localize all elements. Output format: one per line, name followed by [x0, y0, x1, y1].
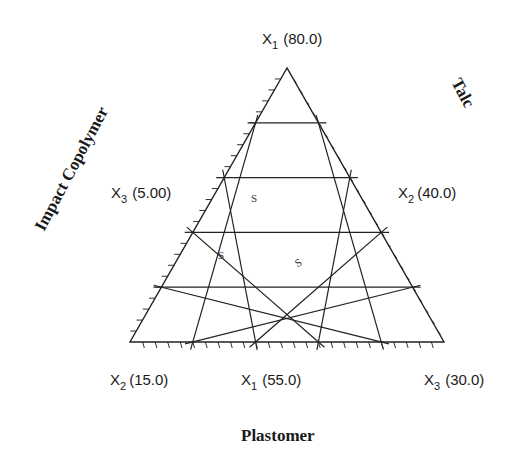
- s-marker: S: [218, 249, 224, 261]
- tick-mark: [243, 342, 245, 348]
- vertex-label-bottom-right: X3(30.0): [424, 371, 484, 392]
- tick-mark: [268, 342, 270, 348]
- component-label-right: Talc: [447, 75, 478, 111]
- triangle-outline: [130, 68, 444, 342]
- tick-mark: [168, 342, 170, 348]
- component-label-left: Impact Copolymer: [31, 103, 112, 234]
- tick-mark: [218, 342, 220, 348]
- s-marker: S: [251, 192, 257, 204]
- tick-mark: [155, 342, 157, 348]
- vertex-label-right: X2(40.0): [398, 184, 456, 205]
- vertex-label-bottom-mid: X1(55.0): [241, 371, 301, 392]
- tick-mark: [281, 342, 283, 348]
- grid-line: [154, 285, 389, 344]
- tick-mark: [344, 342, 346, 348]
- grid-line: [317, 170, 351, 350]
- tick-mark: [293, 342, 295, 348]
- tick-mark: [193, 342, 195, 348]
- component-label-bottom: Plastomer: [241, 426, 315, 445]
- vertex-label-bottom-left: X2(15.0): [110, 371, 168, 392]
- tick-mark: [331, 342, 333, 348]
- tick-mark: [356, 342, 358, 348]
- grid-line: [185, 285, 420, 344]
- tick-mark: [306, 342, 308, 348]
- tick-mark: [180, 342, 182, 348]
- tick-mark: [143, 342, 145, 348]
- vertex-label-top: X1(80.0): [262, 30, 322, 51]
- ternary-diagram: S S S X1(80.0) X3(5.00) X2(40.0) X2(15.0…: [0, 0, 523, 457]
- tick-mark: [369, 342, 371, 348]
- tick-mark: [394, 342, 396, 348]
- tick-mark: [230, 342, 232, 348]
- tick-mark: [431, 342, 433, 348]
- tick-mark: [406, 342, 408, 348]
- edge-ticks: [130, 79, 440, 348]
- design-points: S S S: [218, 192, 304, 269]
- tick-mark: [419, 342, 421, 348]
- tick-mark: [205, 342, 207, 348]
- vertex-label-left: X3(5.00): [111, 184, 171, 205]
- s-marker: S: [293, 256, 304, 269]
